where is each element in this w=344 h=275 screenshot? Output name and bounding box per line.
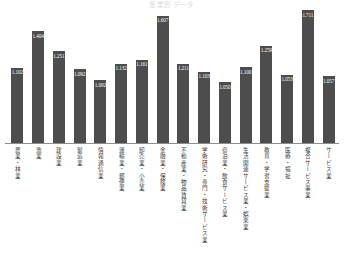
category-label: 運輸業・郵便業 — [118, 147, 125, 192]
bar-chart: 産業別 データ 1.1021.4041.2511.0921.0921.1321.… — [0, 0, 344, 275]
bar-slot: 1.100 — [235, 9, 256, 143]
category-label: 製造業 — [76, 147, 83, 166]
bar: 1.057 — [323, 76, 335, 143]
bar-value-label: 1.053 — [282, 76, 293, 82]
bar: 1.251 — [53, 51, 65, 143]
category-label-slot: 運輸業・郵便業 — [111, 147, 132, 271]
bar: 1.711 — [302, 10, 314, 143]
bar-value-label: 1.251 — [53, 53, 64, 59]
bar-value-label: 1.711 — [302, 12, 313, 18]
bar: 1.050 — [219, 82, 231, 143]
category-label: 卸売業・小売業 — [138, 147, 145, 192]
category-label-slot: 生活関連サービス業・娯楽業 — [235, 147, 256, 271]
bar-slot: 1.057 — [318, 9, 339, 143]
bar-slot: 1.050 — [215, 9, 236, 143]
category-label-slot: 卸売業・小売業 — [132, 147, 153, 271]
category-label-slot: 教育・学習支援業 — [256, 147, 277, 271]
bar: 1.053 — [281, 75, 293, 143]
bar-value-label: 1.100 — [240, 69, 251, 75]
category-label: 不動産業・物品賃貸業 — [180, 147, 187, 211]
category-label: サービス業 — [325, 147, 332, 179]
category-label-slot: 宿泊業・飲食サービス業 — [215, 147, 236, 271]
category-labels-layer: 農業・林業漁業建設業製造業情報通信業運輸業・郵便業卸売業・小売業金融業・保険業不… — [7, 147, 339, 271]
category-label: 宿泊業・飲食サービス業 — [221, 147, 228, 217]
category-label-slot: 漁業 — [28, 147, 49, 271]
category-label: 生活関連サービス業・娯楽業 — [242, 147, 249, 230]
bar-slot: 1.092 — [90, 9, 111, 143]
bar-value-label: 1.103 — [199, 73, 210, 79]
bars-layer: 1.1021.4041.2511.0921.0921.1321.1611.607… — [7, 9, 339, 143]
category-label-slot: 学術研究・専門・技術サービス業 — [194, 147, 215, 271]
bar-value-label: 1.607 — [157, 17, 168, 23]
bar-slot: 1.259 — [256, 9, 277, 143]
category-label: 建設業 — [55, 147, 62, 166]
bar-value-label: 1.404 — [33, 33, 44, 39]
bar-slot: 1.607 — [152, 9, 173, 143]
category-label-slot: 農業・林業 — [7, 147, 28, 271]
bar-slot: 1.053 — [277, 9, 298, 143]
x-axis-line — [5, 143, 339, 144]
bar: 1.103 — [198, 72, 210, 143]
category-label-slot: 複合サービス事業 — [298, 147, 319, 271]
bar-slot: 1.161 — [132, 9, 153, 143]
bar-value-label: 1.050 — [219, 84, 230, 90]
bar-slot: 1.711 — [298, 9, 319, 143]
bar: 1.092 — [94, 80, 106, 143]
bar: 1.132 — [115, 64, 127, 143]
bar-value-label: 1.092 — [74, 71, 85, 77]
bar-value-label: 1.057 — [323, 78, 334, 84]
bar-slot: 1.132 — [111, 9, 132, 143]
category-label: 農業・林業 — [14, 147, 21, 179]
bar: 1.102 — [11, 68, 23, 143]
bar-slot: 1.251 — [49, 9, 70, 143]
category-label-slot: 医療・福祉 — [277, 147, 298, 271]
bar-value-label: 1.259 — [261, 47, 272, 53]
bar-slot: 1.102 — [7, 9, 28, 143]
bar-value-label: 1.132 — [116, 65, 127, 71]
category-label-slot: 製造業 — [69, 147, 90, 271]
category-label-slot: 金融業・保険業 — [152, 147, 173, 271]
category-label: 漁業 — [35, 147, 42, 160]
bar-slot: 1.092 — [69, 9, 90, 143]
bar: 1.100 — [240, 67, 252, 143]
category-label-slot: サービス業 — [318, 147, 339, 271]
bar: 1.259 — [260, 46, 272, 143]
category-label-slot: 不動産業・物品賃貸業 — [173, 147, 194, 271]
bar-value-label: 1.092 — [95, 82, 106, 88]
bar-value-label: 1.161 — [136, 61, 147, 67]
plot-area: 1.1021.4041.2511.0921.0921.1321.1611.607… — [7, 9, 339, 143]
category-label: 金融業・保険業 — [159, 147, 166, 192]
category-label: 学術研究・専門・技術サービス業 — [201, 147, 208, 243]
bar-value-label: 1.211 — [178, 65, 189, 71]
bar: 1.211 — [177, 64, 189, 143]
bar: 1.161 — [136, 60, 148, 143]
bar-slot: 1.404 — [28, 9, 49, 143]
category-label: 複合サービス事業 — [304, 147, 311, 198]
category-label-slot: 情報通信業 — [90, 147, 111, 271]
category-label: 情報通信業 — [97, 147, 104, 179]
bar: 1.404 — [32, 31, 44, 143]
bar-value-label: 1.102 — [12, 69, 23, 75]
category-label-slot: 建設業 — [49, 147, 70, 271]
category-label: 医療・福祉 — [284, 147, 291, 179]
bar-slot: 1.211 — [173, 9, 194, 143]
bar: 1.092 — [74, 69, 86, 143]
bar-slot: 1.103 — [194, 9, 215, 143]
category-label: 教育・学習支援業 — [263, 147, 270, 198]
bar: 1.607 — [157, 16, 169, 143]
